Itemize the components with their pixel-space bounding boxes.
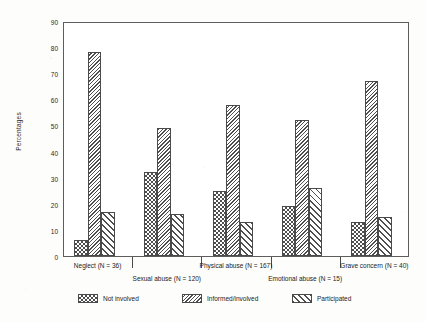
bar	[378, 217, 392, 256]
bar	[88, 52, 102, 256]
chart-page: Percentages 0102030405060708090 Neglect …	[0, 0, 426, 322]
bar	[351, 222, 365, 256]
category-label: Physical abuse (N = 167)	[200, 262, 273, 269]
bar	[171, 214, 185, 256]
bar	[240, 222, 254, 256]
y-tick-label: 0	[32, 254, 58, 261]
y-tick-label: 10	[32, 227, 58, 234]
y-tick-label: 60	[32, 97, 58, 104]
y-axis-title: Percentages	[15, 92, 22, 172]
bar	[282, 206, 296, 256]
bar	[295, 120, 309, 256]
y-tick-label: 90	[32, 19, 58, 26]
bar	[213, 191, 227, 256]
group-separator-tick	[132, 257, 133, 268]
y-tick-label: 80	[32, 45, 58, 52]
category-label: Grave concern (N = 40)	[340, 262, 408, 269]
y-tick-label: 20	[32, 201, 58, 208]
bar	[365, 81, 379, 256]
legend-swatch	[78, 294, 98, 303]
legend-label: Not involved	[103, 295, 139, 302]
legend-item: Participated	[292, 294, 351, 303]
legend-label: Participated	[317, 295, 351, 302]
y-tick-label: 40	[32, 149, 58, 156]
bar	[101, 212, 115, 256]
plot-area	[63, 22, 409, 257]
bar	[309, 188, 323, 256]
bar	[157, 128, 171, 256]
category-label: Emotional abuse (N = 15)	[268, 275, 342, 282]
legend: Not involvedInformed/involvedParticipate…	[0, 294, 426, 310]
bar	[226, 105, 240, 256]
legend-label: Informed/involved	[207, 295, 258, 302]
legend-item: Informed/involved	[182, 294, 258, 303]
y-tick-label: 70	[32, 71, 58, 78]
bar	[144, 172, 158, 256]
y-tick-label: 50	[32, 123, 58, 130]
legend-item: Not involved	[78, 294, 139, 303]
legend-swatch	[292, 294, 312, 303]
category-label: Neglect (N = 36)	[74, 262, 122, 269]
y-tick-label: 30	[32, 175, 58, 182]
category-label: Sexual abuse (N = 120)	[133, 275, 201, 282]
bar	[74, 240, 88, 256]
legend-swatch	[182, 294, 202, 303]
